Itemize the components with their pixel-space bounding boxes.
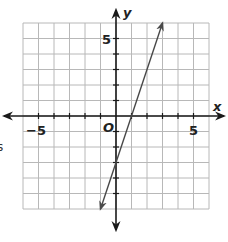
y-axis-label: y (123, 6, 131, 19)
cropped-text-fragment: s (0, 140, 3, 154)
x-tick-label-5: 5 (189, 124, 198, 137)
x-axis-label: x (213, 100, 221, 113)
axes (4, 10, 224, 230)
y-tick-label-5: 5 (102, 33, 111, 46)
origin-label: O (103, 121, 114, 134)
x-tick-label-neg5: −5 (26, 124, 46, 137)
